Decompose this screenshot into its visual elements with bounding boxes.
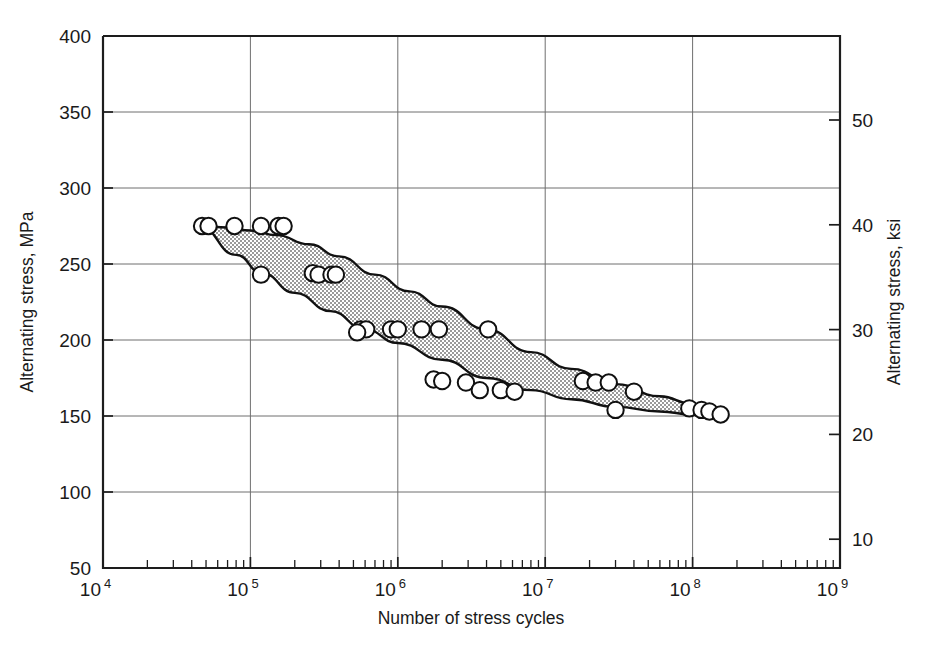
sn-fatigue-chart: 5010015020025030035040010203040501041051… — [0, 0, 932, 652]
chart-canvas: 5010015020025030035040010203040501041051… — [0, 0, 932, 652]
data-point-marker — [480, 321, 496, 337]
y-tick-label-left: 150 — [59, 406, 91, 427]
data-point-marker — [506, 383, 522, 399]
data-point-marker — [390, 321, 406, 337]
y-tick-label-right: 50 — [852, 110, 873, 131]
x-axis-title: Number of stress cycles — [378, 608, 565, 628]
data-point-marker — [328, 266, 344, 282]
y-tick-label-right: 20 — [852, 424, 873, 445]
x-tick-label-mantissa: 10 — [669, 579, 690, 600]
data-point-marker — [431, 321, 447, 337]
x-tick-label-mantissa: 10 — [375, 579, 396, 600]
y-tick-label-left: 50 — [70, 558, 91, 579]
y-tick-label-right: 30 — [852, 320, 873, 341]
x-tick-label-mantissa: 10 — [227, 579, 248, 600]
y-tick-label-right: 40 — [852, 215, 873, 236]
x-tick-label-exponent: 7 — [546, 576, 553, 591]
y-tick-label-right: 10 — [852, 529, 873, 550]
data-point-marker — [607, 402, 623, 418]
y-axis-title-left: Alternating stress, MPa — [17, 211, 37, 392]
y-axis-title-right: Alternating stress, ksi — [884, 219, 904, 385]
data-point-marker — [275, 218, 291, 234]
data-point-marker — [601, 374, 617, 390]
x-tick-label-mantissa: 10 — [80, 579, 101, 600]
data-point-marker — [472, 382, 488, 398]
y-tick-label-left: 100 — [59, 482, 91, 503]
x-tick-label-exponent: 8 — [694, 576, 701, 591]
data-point-marker — [226, 218, 242, 234]
x-tick-label-exponent: 5 — [251, 576, 258, 591]
data-point-marker — [349, 324, 365, 340]
data-point-marker — [434, 373, 450, 389]
y-tick-label-left: 350 — [59, 102, 91, 123]
data-point-marker — [626, 383, 642, 399]
x-tick-label-mantissa: 10 — [522, 579, 543, 600]
data-point-marker — [413, 321, 429, 337]
data-point-marker — [253, 266, 269, 282]
data-point-marker — [253, 218, 269, 234]
x-tick-label-exponent: 9 — [841, 576, 848, 591]
y-tick-label-left: 400 — [59, 26, 91, 47]
y-tick-label-left: 200 — [59, 330, 91, 351]
x-tick-label-exponent: 6 — [399, 576, 406, 591]
y-tick-label-left: 250 — [59, 254, 91, 275]
data-point-marker — [712, 406, 728, 422]
data-point-marker — [200, 218, 216, 234]
x-tick-label-mantissa: 10 — [817, 579, 838, 600]
x-tick-label-exponent: 4 — [104, 576, 111, 591]
y-tick-label-left: 300 — [59, 178, 91, 199]
